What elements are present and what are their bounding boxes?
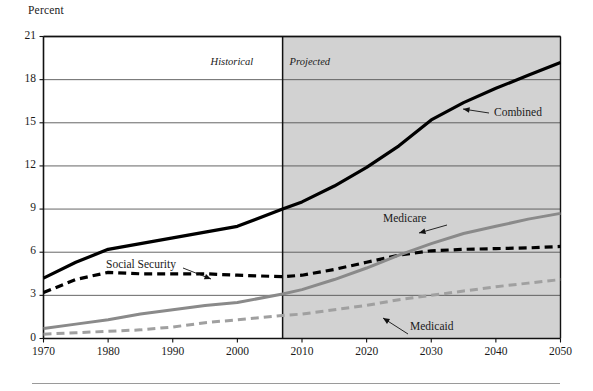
projected-shaded-region [283, 37, 561, 339]
footer-divider-rule [32, 383, 560, 384]
x-tick-label: 2010 [272, 345, 332, 357]
y-tick-label: 9 [6, 201, 36, 213]
y-tick-label: 21 [6, 29, 36, 41]
x-tick-label: 2000 [207, 345, 267, 357]
y-tick-label: 3 [6, 287, 36, 299]
x-tick-label: 2030 [401, 345, 461, 357]
series-label-combined: Combined [494, 106, 542, 118]
y-tick-label: 15 [6, 115, 36, 127]
x-tick-label: 2040 [466, 345, 526, 357]
x-tick-label: 2020 [337, 345, 397, 357]
historical-region-label: Historical [211, 56, 254, 67]
y-tick-label: 6 [6, 244, 36, 256]
x-tick-label: 1970 [14, 345, 74, 357]
y-tick-label: 12 [6, 158, 36, 170]
y-tick-label: 18 [6, 72, 36, 84]
y-tick-label: 0 [6, 331, 36, 343]
x-tick-label: 1990 [143, 345, 203, 357]
y-axis-title: Percent [28, 4, 64, 16]
x-tick-label: 1980 [78, 345, 138, 357]
chart-figure: Percent Historical Projected Combined So… [0, 0, 593, 391]
projected-region-label: Projected [290, 56, 330, 67]
series-label-medicaid: Medicaid [410, 320, 453, 332]
series-label-medicare: Medicare [383, 212, 426, 224]
series-label-social-security: Social Security [106, 258, 176, 270]
x-tick-label: 2050 [531, 345, 591, 357]
